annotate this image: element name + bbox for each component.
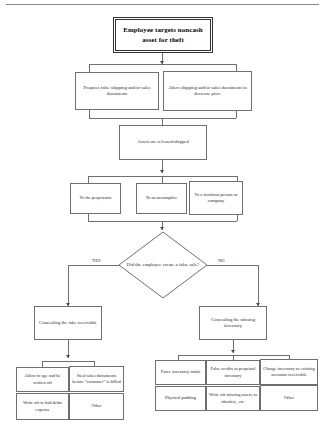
arrowhead-root [160,61,164,64]
node-no-leaf-charge-inventory[interactable]: Charge inventory to existing accounts re… [260,359,318,385]
connector-yes-horizontal [68,265,119,266]
node-destination-accomplice[interactable]: To an accomplice [136,183,187,214]
node-no-leaf-write-off-missing-assets[interactable]: Write off missing assets as obsolete, et… [206,386,260,411]
node-method-prepares-false-documents[interactable]: Prepares false shipping and/or sales doc… [75,72,159,110]
arrowhead-no-branch [231,350,235,353]
decision-label: Did the employee create a false sale? [118,231,208,299]
flowchart-canvas: Employee targets noncash asset for theft… [0,0,325,448]
node-concealing-missing-inventory[interactable]: Concealing the missing inventory [199,306,267,340]
connector-methods-right-rise [236,111,237,118]
arrowhead-yes-branch [66,355,70,358]
connector-fork-methods [89,64,236,65]
edge-label-yes: YES [91,258,102,263]
connector-methods-left-rise [89,110,90,118]
connector-dest1-rise [88,214,89,221]
connector-dest3-rise [237,215,238,221]
connector-no-horizontal [207,265,259,266]
connector-yes-leaf-bar [42,361,94,362]
node-concealing-fake-receivable[interactable]: Concealing the fake receivable [34,306,102,340]
connector-no-vertical [258,265,259,306]
arrowhead-assets [160,170,164,173]
node-assets-released[interactable]: Assets are released/shipped [119,125,207,160]
node-decision-false-sale[interactable]: Did the employee create a false sale? [118,231,208,299]
node-no-leaf-force-inventory-totals[interactable]: Force inventory totals [155,360,206,385]
node-yes-leaf-write-off-bad-debts[interactable]: Write off to bad debts expense [16,393,69,420]
node-no-leaf-false-credits[interactable]: False credits to perpetual inventory [206,360,260,385]
node-no-leaf-other[interactable]: Other [260,385,318,411]
node-method-alters-documents[interactable]: Alters shipping and/or sales documents t… [163,71,252,111]
connector-yes-vertical [68,265,69,306]
arrowhead-decision [160,227,164,230]
node-yes-leaf-allow-to-age[interactable]: Allow to age and be written off [16,367,69,392]
connector-dest2-drop [162,176,163,183]
connector-methods-left-drop [89,64,90,72]
node-destination-fictitious-person[interactable]: To a fictitious person or company [189,181,243,215]
node-yes-leaf-other[interactable]: Other [69,393,124,420]
connector-to-assets [162,118,163,125]
connector-dest1-drop [88,176,89,183]
node-yes-leaf-steal-sales-documents[interactable]: Steal sales documents before "customer" … [69,366,124,392]
node-root[interactable]: Employee targets noncash asset for theft [113,17,213,53]
node-no-leaf-physical-padding[interactable]: Physical padding [155,386,206,411]
node-destination-perpetrator[interactable]: To the perpetrator [70,183,121,214]
edge-label-no: NO [217,258,226,263]
top-divider-rule [6,4,319,5]
